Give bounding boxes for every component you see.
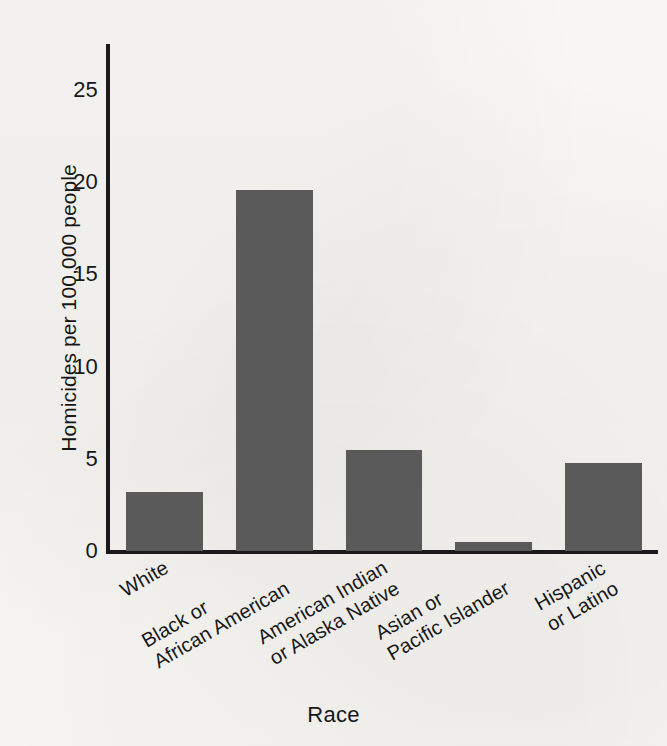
x-tick-label-line: White: [116, 556, 172, 601]
plot-area: 0510152025 Homicides per 100,000 people …: [0, 0, 667, 746]
x-tick-label: Hispanicor Latino: [531, 556, 623, 636]
bar: [565, 463, 642, 551]
y-tick-label: 0: [12, 540, 98, 562]
bar: [346, 450, 423, 551]
y-tick-label: 15: [12, 263, 98, 285]
y-axis-title: Homicides per 100,000 people: [57, 98, 81, 518]
bar-series: [110, 44, 658, 551]
y-tick-label: 20: [12, 171, 98, 193]
x-tick-label: White: [116, 556, 173, 602]
y-tick-label: 10: [12, 356, 98, 378]
x-tick-label: Asian orPacific Islander: [371, 556, 513, 665]
x-axis-ticks: WhiteBlack orAfrican AmericanAmerican In…: [110, 556, 658, 686]
y-axis-ticks: 0510152025: [0, 0, 98, 746]
x-axis-title: Race: [0, 702, 667, 728]
y-tick-label: 5: [12, 448, 98, 470]
bar-chart-figure: 0510152025 Homicides per 100,000 people …: [0, 0, 667, 746]
bar: [236, 190, 313, 551]
y-tick-label: 25: [12, 79, 98, 101]
bar: [455, 542, 532, 551]
bar: [126, 492, 203, 551]
